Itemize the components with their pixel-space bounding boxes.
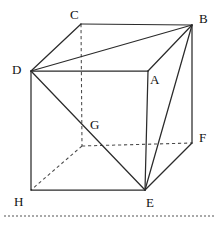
- geometry-figure: A B C D E F G H: [0, 0, 220, 225]
- solid-edges-group: [31, 24, 192, 190]
- hidden-edge-CG: [81, 24, 82, 146]
- vertex-label-G: G: [90, 118, 99, 131]
- edge-CB: [81, 24, 192, 25]
- hidden-edge-GF: [82, 143, 192, 146]
- vertex-label-H: H: [14, 195, 23, 208]
- edge-AE: [145, 71, 148, 190]
- vertex-label-B: B: [199, 12, 208, 25]
- vertex-label-A: A: [150, 73, 159, 86]
- cube-diagram-svg: [0, 0, 220, 225]
- vertex-label-F: F: [199, 131, 206, 144]
- edge-DE: [31, 71, 145, 190]
- vertex-label-D: D: [12, 63, 21, 76]
- hidden-edge-GH: [31, 146, 82, 190]
- vertex-label-C: C: [70, 8, 79, 21]
- vertex-label-E: E: [146, 196, 154, 209]
